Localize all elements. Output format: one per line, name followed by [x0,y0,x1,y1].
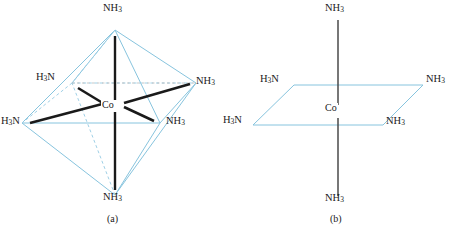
panel-a-octahedron: NH3 H3N H3N NH3 NH3 NH3 Co (a) [0,0,230,230]
ligand-label-right-rear: NH3 [196,76,215,87]
center-atom-label: Co [324,103,338,113]
ligand-label-top: NH3 [103,3,122,14]
figure-canvas: NH3 H3N H3N NH3 NH3 NH3 Co (a) NH3 H3N H… [0,0,451,230]
ligand-label-left-rear: H3N [36,72,55,83]
cobalt-ligand-bonds [30,36,190,190]
ligand-label-right-front: NH3 [166,116,185,127]
ligand-label-bottom: NH3 [325,193,344,204]
center-atom-label: Co [101,100,115,110]
ligand-label-left-front: H3N [1,116,20,127]
ligand-label-right-rear: NH3 [426,74,445,85]
panel-a-caption: (a) [107,213,118,224]
ligand-label-right-front: NH3 [386,116,405,127]
ligand-label-left-front: H3N [223,115,242,126]
panel-b-caption: (b) [330,213,342,224]
panel-b-plane: NH3 H3N H3N NH3 NH3 NH3 Co (b) [220,0,451,230]
ligand-label-left-rear: H3N [260,74,279,85]
octahedron-edges-visible [22,30,196,195]
ligand-label-bottom: NH3 [103,192,122,203]
ligand-label-top: NH3 [325,3,344,14]
